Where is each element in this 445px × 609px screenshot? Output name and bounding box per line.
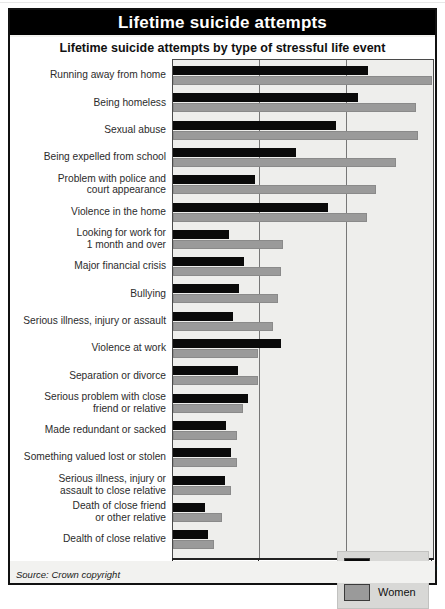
bar-men xyxy=(173,448,231,457)
category-label-line: Being expelled from school xyxy=(10,151,166,163)
bar-group xyxy=(173,175,433,195)
category-label: Serious illness, injury or assault xyxy=(10,315,166,327)
bar-women xyxy=(173,131,418,140)
bar-women xyxy=(173,158,396,167)
category-label-line: Made redundant or sacked xyxy=(10,424,166,436)
bar-women xyxy=(173,185,376,194)
bar-group xyxy=(173,93,433,113)
category-label-line: Separation or divorce xyxy=(10,370,166,382)
category-label: Major financial crisis xyxy=(10,260,166,272)
category-label: Death of close friendor other relative xyxy=(10,500,166,523)
bar-women xyxy=(173,540,214,549)
category-label-line: Death of close friend xyxy=(10,500,166,512)
bar-men xyxy=(173,476,225,485)
category-label: Violence at work xyxy=(10,342,166,354)
bars-canvas xyxy=(172,59,434,558)
bar-group xyxy=(173,148,433,168)
bar-women xyxy=(173,349,258,358)
bar-men xyxy=(173,339,281,348)
bar-group xyxy=(173,366,433,386)
bar-women xyxy=(173,486,231,495)
legend-label-women: Women xyxy=(378,586,416,598)
bar-men xyxy=(173,230,229,239)
category-label-line: Running away from home xyxy=(10,69,166,81)
bar-women xyxy=(173,76,432,85)
category-axis-labels: Running away from homeBeing homelessSexu… xyxy=(10,59,170,565)
bar-men xyxy=(173,66,368,75)
category-label: Serious illness, injury orassault to clo… xyxy=(10,473,166,496)
bar-women xyxy=(173,213,367,222)
category-label: Separation or divorce xyxy=(10,370,166,382)
bar-men xyxy=(173,503,205,512)
bar-women xyxy=(173,513,222,522)
category-label-line: Sexual abuse xyxy=(10,124,166,136)
category-label: Dealth of close relative xyxy=(10,533,166,545)
bar-men xyxy=(173,93,358,102)
bar-group xyxy=(173,284,433,304)
bar-men xyxy=(173,175,255,184)
bar-women xyxy=(173,458,237,467)
bar-men xyxy=(173,148,296,157)
bar-women xyxy=(173,103,416,112)
bar-men xyxy=(173,121,336,130)
category-label-line: Problem with police and xyxy=(10,173,166,185)
category-label: Bullying xyxy=(10,288,166,300)
category-label: Being expelled from school xyxy=(10,151,166,163)
banner-title: Lifetime suicide attempts xyxy=(10,10,435,35)
bar-group xyxy=(173,421,433,441)
bar-group xyxy=(173,394,433,414)
source-note: Source: Crown copyright xyxy=(16,569,120,580)
category-label-line: or other relative xyxy=(10,512,166,524)
bar-group xyxy=(173,339,433,359)
bar-women xyxy=(173,376,258,385)
legend-swatch-women xyxy=(344,584,370,601)
bar-men xyxy=(173,257,244,266)
category-label-line: Violence at work xyxy=(10,342,166,354)
bar-group xyxy=(173,66,433,86)
category-label-line: Looking for work for xyxy=(10,227,166,239)
category-label-line: Serious illness, injury or assault xyxy=(10,315,166,327)
bar-group xyxy=(173,476,433,496)
bar-group xyxy=(173,530,433,550)
chart-frame: Lifetime suicide attempts Lifetime suici… xyxy=(8,8,437,585)
category-label-line: Major financial crisis xyxy=(10,260,166,272)
category-label: Being homeless xyxy=(10,97,166,109)
category-label-line: Dealth of close relative xyxy=(10,533,166,545)
category-label: Running away from home xyxy=(10,69,166,81)
category-label-line: Something valued lost or stolen xyxy=(10,451,166,463)
bar-group xyxy=(173,257,433,277)
category-label: Serious problem with closefriend or rela… xyxy=(10,391,166,414)
bar-men xyxy=(173,530,208,539)
category-label: Problem with police andcourt appearance xyxy=(10,173,166,196)
category-label: Sexual abuse xyxy=(10,124,166,136)
bar-men xyxy=(173,394,248,403)
bar-men xyxy=(173,312,233,321)
chart-subtitle: Lifetime suicide attempts by type of str… xyxy=(10,37,435,59)
category-label-line: 1 month and over xyxy=(10,239,166,251)
bar-men xyxy=(173,284,239,293)
bar-men xyxy=(173,421,226,430)
bar-women xyxy=(173,294,278,303)
category-label: Something valued lost or stolen xyxy=(10,451,166,463)
bar-group xyxy=(173,203,433,223)
category-label-line: Serious problem with close xyxy=(10,391,166,403)
category-label-line: Violence in the home xyxy=(10,206,166,218)
category-label-line: court appearance xyxy=(10,184,166,196)
bar-women xyxy=(173,322,273,331)
category-label-line: assault to close relative xyxy=(10,485,166,497)
bar-group xyxy=(173,230,433,250)
category-label: Looking for work for1 month and over xyxy=(10,227,166,250)
category-label: Violence in the home xyxy=(10,206,166,218)
bar-group xyxy=(173,448,433,468)
scan-artifact-line xyxy=(0,2,445,3)
category-label: Made redundant or sacked xyxy=(10,424,166,436)
bar-group xyxy=(173,121,433,141)
category-label-line: Being homeless xyxy=(10,97,166,109)
bar-women xyxy=(173,267,281,276)
category-label-line: Serious illness, injury or xyxy=(10,473,166,485)
bar-group xyxy=(173,312,433,332)
bar-women xyxy=(173,431,237,440)
category-label-line: Bullying xyxy=(10,288,166,300)
source-strip: Source: Crown copyright xyxy=(10,561,435,583)
